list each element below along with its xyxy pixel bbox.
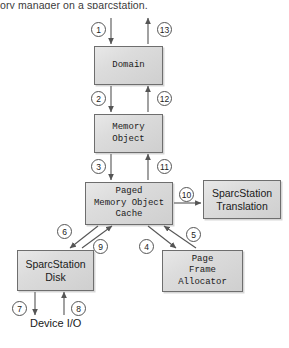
node-page-frame-allocator[interactable]: Page Frame Allocator [162,250,243,292]
label-device-io: Device I/O [30,317,81,329]
step-marker-9: 9 [93,239,108,254]
diagram-page: ory manager on a sparcstation. Domain Me… [0,0,289,348]
node-sparcstation-disk[interactable]: SparcStation Disk [17,250,94,291]
step-marker-8: 8 [71,301,86,316]
node-paged-memory-object-cache[interactable]: Paged Memory Object Cache [85,182,173,225]
node-memory-object[interactable]: Memory Object [94,114,163,153]
node-sparcstation-translation-label: SparcStation Translation [212,187,272,213]
node-memory-object-label: Memory Object [112,122,144,145]
step-marker-6: 6 [57,224,72,239]
step-marker-1: 1 [91,22,106,37]
node-domain[interactable]: Domain [94,46,163,85]
step-marker-3: 3 [91,159,106,174]
step-marker-13: 13 [157,22,172,37]
node-domain-label: Domain [112,60,144,72]
step-marker-7: 7 [12,301,27,316]
step-marker-12: 12 [157,91,172,106]
node-page-frame-allocator-label: Page Frame Allocator [178,254,227,289]
step-marker-2: 2 [91,91,106,106]
node-paged-memory-object-cache-label: Paged Memory Object Cache [94,186,164,221]
node-sparcstation-disk-label: SparcStation Disk [25,258,85,284]
step-marker-11: 11 [157,159,172,174]
step-marker-10: 10 [179,187,194,202]
step-marker-5: 5 [186,227,201,242]
step-marker-4: 4 [139,239,154,254]
node-sparcstation-translation[interactable]: SparcStation Translation [203,180,281,219]
